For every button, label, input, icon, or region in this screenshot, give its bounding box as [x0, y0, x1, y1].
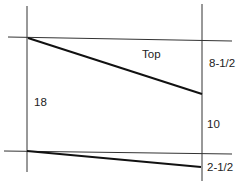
left-height-label: 18 — [34, 96, 47, 108]
right-upper-label: 8-1/2 — [209, 57, 235, 69]
top-horizontal-line — [8, 37, 232, 41]
right-middle-label: 10 — [207, 118, 220, 130]
top-slope-line — [28, 38, 202, 94]
right-lower-label: 2-1/2 — [207, 161, 233, 173]
top-label: Top — [142, 48, 161, 60]
slope-diagram: Top 18 8-1/2 10 2-1/2 — [0, 0, 244, 185]
